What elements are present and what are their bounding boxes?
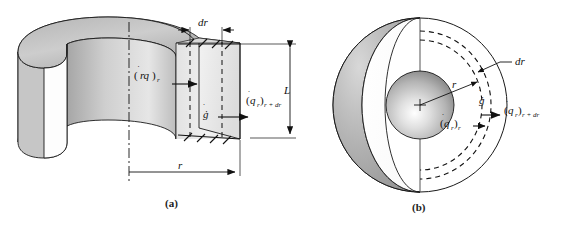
label-dr-b: dr [515, 55, 526, 67]
label-generation-a-symbol: ġ [203, 108, 209, 120]
label-generation-b-symbol: ġ [479, 94, 485, 106]
svg-text:(: ( [134, 69, 138, 82]
label-r-b: r [452, 78, 457, 90]
technical-figure-svg: dr ( r ) r ̇ x q ( q ̇ r ) r + dr ġ ̇ [0, 0, 563, 228]
L-dimension-a: L [240, 44, 296, 138]
element-front-face [199, 38, 240, 139]
label-flux-in-b-sub: r [458, 124, 461, 132]
label-flux-out-b: ( q ̇ r ) r + dr [504, 101, 539, 119]
cylinder-inner-bore [67, 38, 176, 139]
panel-b-sphere: r dr ġ ̇ ( q ̇ r ) r + dr ( q ̇ r [333, 18, 539, 214]
svg-text:q: q [508, 104, 514, 116]
svg-text:q: q [444, 117, 450, 129]
label-flux-in-a-sub: r [157, 76, 160, 84]
caption-panel-a: (a) [165, 197, 178, 210]
r-dimension-a: r [129, 140, 240, 176]
label-dr-a: dr [198, 16, 209, 28]
label-L-a: L [283, 84, 290, 96]
caption-panel-b: (b) [412, 201, 426, 214]
panel-a-cylinder: dr ( r ) r ̇ x q ( q ̇ r ) r + dr ġ ̇ [18, 16, 296, 210]
figure-container: dr ( r ) r ̇ x q ( q ̇ r ) r + dr ġ ̇ [0, 0, 563, 228]
label-r-a: r [178, 159, 183, 171]
label-flux-out-a-sub: r + dr [264, 101, 281, 109]
svg-text:̇: ̇ [248, 91, 250, 92]
svg-text:q: q [144, 69, 150, 81]
svg-text:): ) [152, 69, 156, 82]
label-flux-out-a: ( q ̇ r ) r + dr [246, 91, 281, 109]
svg-text:q: q [250, 94, 256, 106]
label-flux-out-b-sub: r + dr [522, 111, 539, 119]
